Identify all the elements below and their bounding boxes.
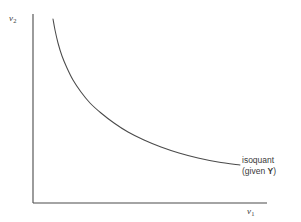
annotation-given-prefix: (given: [242, 166, 268, 176]
y-axis-label-subscript: 2: [13, 17, 16, 24]
annotation-given-suffix: ): [273, 166, 276, 176]
y-axis-label: v2: [9, 14, 16, 25]
x-axis-label-subscript: 1: [251, 210, 254, 217]
x-axis-label: v1: [247, 207, 254, 218]
isoquant-figure: v2 v1 isoquant(given Y): [0, 0, 301, 222]
isoquant-curve: [53, 19, 240, 165]
plot-area: [0, 0, 301, 222]
isoquant-annotation-line1: isoquant: [242, 155, 274, 165]
isoquant-annotation: isoquant(given Y): [242, 155, 276, 177]
isoquant-annotation-line2: (given Y): [242, 166, 276, 177]
